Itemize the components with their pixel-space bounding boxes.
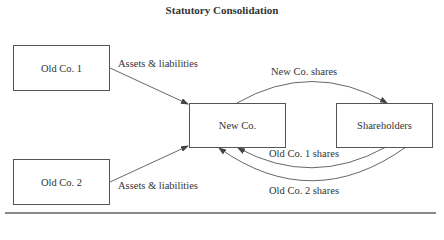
node-label: Shareholders [357, 120, 412, 131]
edge-label-new-co-shares: New Co. shares [271, 66, 337, 77]
bottom-divider [5, 212, 436, 214]
node-new-co: New Co. [189, 103, 286, 148]
node-label: New Co. [219, 120, 256, 131]
node-shareholders: Shareholders [336, 103, 433, 148]
edge-label-old1-assets: Assets & liabilities [118, 58, 198, 69]
node-label: Old Co. 1 [41, 63, 82, 74]
arrow-old1-to-newco [110, 68, 188, 104]
arrow-newco-to-shareholders [237, 82, 387, 104]
edge-label-old2-assets: Assets & liabilities [118, 180, 198, 191]
node-old-co-2: Old Co. 2 [13, 159, 110, 205]
edge-label-old-co-1-shares: Old Co. 1 shares [269, 148, 339, 159]
edge-label-old-co-2-shares: Old Co. 2 shares [269, 185, 339, 196]
arrow-old2-to-newco [110, 146, 188, 182]
node-old-co-1: Old Co. 1 [13, 45, 110, 91]
node-label: Old Co. 2 [41, 177, 82, 188]
